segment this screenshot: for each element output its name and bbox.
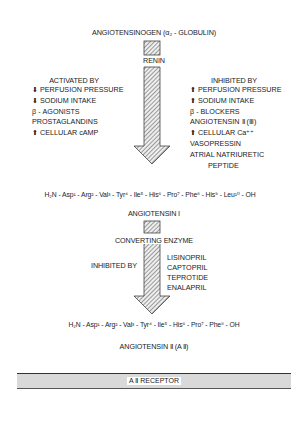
- list-item: β - BLOCKERS: [190, 107, 281, 118]
- list-item: β - AGONISTS: [32, 107, 123, 118]
- list-item: LISINOPRIL: [167, 253, 208, 263]
- list-item: ⬇ SODIUM INTAKE: [32, 96, 123, 107]
- list-item: ⬆ CELLULAR Ca⁺⁺: [190, 128, 281, 139]
- renin-label: RENIN: [142, 57, 166, 64]
- list-item: ATRIAL NATRIURETIC: [190, 150, 281, 161]
- list-item: ⬆ SODIUM INTAKE: [190, 96, 281, 107]
- angiotensin-i-sequence: H₂N - Asp¹ - Arg² - Val³ - Tyr⁴ - Ile⁵ -…: [44, 192, 255, 199]
- activated-by-list: ⬇ PERFUSION PRESSURE ⬇ SODIUM INTAKE β -…: [32, 85, 123, 139]
- angiotensin-ii-label: ANGIOTENSIN Ⅱ (A Ⅱ): [120, 343, 189, 350]
- ace-inhibitors-list: LISINOPRIL CAPTOPRIL TEPROTIDE ENALAPRIL: [167, 253, 208, 293]
- list-item: ANGIOTENSIN Ⅱ (Ⅲ): [190, 117, 281, 128]
- list-item: ⬆ PERFUSION PRESSURE: [190, 85, 281, 96]
- list-item: PROSTAGLANDINS: [32, 117, 123, 128]
- list-item: PEPTIDE: [190, 161, 281, 172]
- list-item: VASOPRESSIN: [190, 139, 281, 150]
- inhibited-by-list: ⬆ PERFUSION PRESSURE ⬆ SODIUM INTAKE β -…: [190, 85, 281, 171]
- list-item: ENALAPRIL: [167, 283, 208, 293]
- ace-inhibited-by-heading: INHIBITED BY: [91, 262, 137, 269]
- angiotensinogen-label: ANGIOTENSINOGEN (α₂ - GLOBULIN): [92, 29, 216, 36]
- receptor-label: A Ⅱ RECEPTOR: [127, 377, 181, 385]
- list-item: ⬆ CELLULAR cAMP: [32, 128, 123, 139]
- list-item: ⬇ PERFUSION PRESSURE: [32, 85, 123, 96]
- receptor-band: A Ⅱ RECEPTOR: [17, 373, 291, 389]
- activated-by-heading: ACTIVATED BY: [49, 77, 99, 84]
- angiotensin-ii-sequence: H₂N - Asp¹ - Arg² - Val³ - Tyr⁴ - Ile⁵ -…: [68, 322, 239, 329]
- list-item: TEPROTIDE: [167, 273, 208, 283]
- angiotensin-i-label: ANGIOTENSIN Ⅰ: [128, 210, 180, 217]
- list-item: CAPTOPRIL: [167, 263, 208, 273]
- inhibited-by-heading: INHIBITED BY: [211, 77, 257, 84]
- converting-enzyme-label: CONVERTING ENZYME: [114, 237, 194, 244]
